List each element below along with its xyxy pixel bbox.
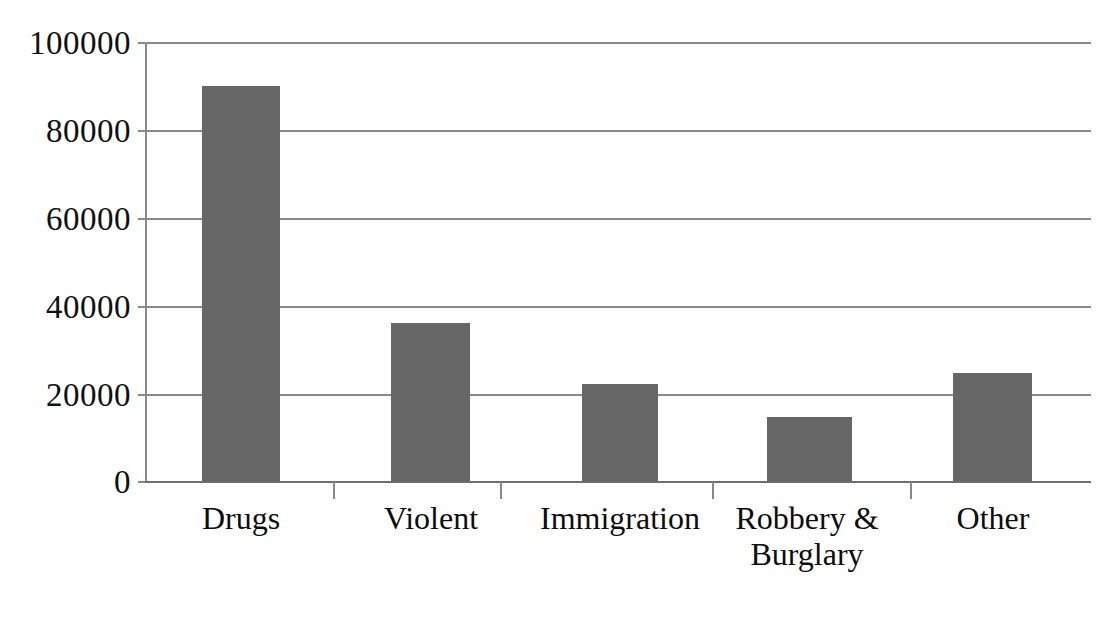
y-tick-label-60000: 60000 xyxy=(11,203,131,236)
x-axis-tick-1 xyxy=(333,482,335,499)
plot-area xyxy=(145,42,1091,481)
x-axis-tick-2 xyxy=(500,482,502,499)
gridline-baseline-0 xyxy=(145,481,1091,483)
bar-robbery-burglary[interactable] xyxy=(767,417,852,481)
x-tick-label-immigration: Immigration xyxy=(510,500,730,536)
x-axis-tick-4 xyxy=(910,482,912,499)
x-tick-label-robbery-burglary: Robbery & Burglary xyxy=(707,500,907,572)
gridline-80000 xyxy=(145,130,1091,132)
x-axis-tick-3 xyxy=(712,482,714,499)
bar-violent[interactable] xyxy=(391,323,470,481)
bar-immigration[interactable] xyxy=(582,384,658,481)
y-tick-label-20000: 20000 xyxy=(11,379,131,412)
x-tick-label-other: Other xyxy=(913,500,1073,536)
y-tick-label-40000: 40000 xyxy=(11,291,131,324)
x-tick-label-violent: Violent xyxy=(351,500,511,536)
bar-drugs[interactable] xyxy=(202,86,280,481)
gridline-40000 xyxy=(145,306,1091,308)
bar-other[interactable] xyxy=(953,373,1032,481)
y-tick-label-80000: 80000 xyxy=(11,115,131,148)
y-tick-label-100000: 100000 xyxy=(11,27,131,60)
x-tick-label-drugs: Drugs xyxy=(161,500,321,536)
gridline-100000 xyxy=(145,42,1091,44)
y-tick-label-0: 0 xyxy=(11,466,131,499)
y-axis-labels: 100000 80000 60000 40000 20000 0 xyxy=(0,0,131,622)
gridline-60000 xyxy=(145,218,1091,220)
bar-chart: 100000 80000 60000 40000 20000 0 Drugs V… xyxy=(0,0,1115,622)
